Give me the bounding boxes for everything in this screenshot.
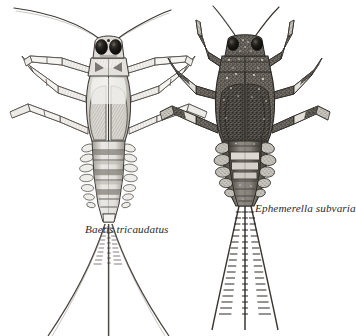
ephemerella-right-eye (251, 38, 262, 51)
ephemerella-head (225, 35, 265, 56)
baetis-pronotum (88, 58, 129, 76)
species-label-ephemerella: Ephemerella subvaria (255, 203, 356, 214)
ephemerella-left-eye (227, 38, 238, 51)
baetis-left-eye (96, 40, 108, 55)
baetis-right-eye (110, 40, 122, 55)
baetis-head (93, 36, 124, 58)
ephemerella-pronotum (219, 56, 271, 72)
species-label-baetis: Baetis tricaudatus (85, 224, 169, 235)
baetis-thorax (86, 70, 130, 141)
ephemerella-thorax (215, 65, 274, 142)
